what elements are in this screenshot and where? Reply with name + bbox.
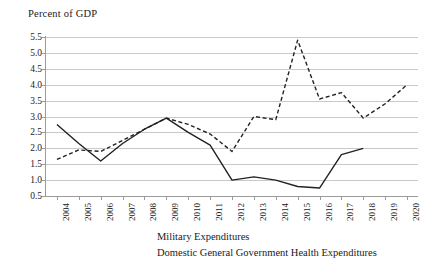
y-tick-mark [42, 132, 46, 133]
y-tick-mark [42, 196, 46, 197]
series-line [57, 118, 363, 188]
y-tick-mark [42, 164, 46, 165]
y-tick-mark [42, 53, 46, 54]
chart-container: Percent of GDP 0.51.01.52.02.53.03.54.04… [0, 0, 441, 268]
legend-label-health: Domestic General Government Health Expen… [157, 247, 377, 258]
legend-key-dashed [98, 236, 150, 237]
legend-item-military: Military Expenditures [0, 228, 441, 244]
y-tick-mark [42, 37, 46, 38]
legend-label-military: Military Expenditures [157, 231, 249, 242]
y-tick-mark [42, 69, 46, 70]
y-tick-mark [42, 180, 46, 181]
y-tick-mark [42, 117, 46, 118]
y-tick-mark [42, 101, 46, 102]
legend-key-solid [98, 252, 150, 253]
chart-legend: Military Expenditures Domestic General G… [0, 228, 441, 260]
legend-item-health: Domestic General Government Health Expen… [0, 244, 441, 260]
series-line [57, 40, 407, 159]
y-tick-mark [42, 148, 46, 149]
y-tick-mark [42, 85, 46, 86]
